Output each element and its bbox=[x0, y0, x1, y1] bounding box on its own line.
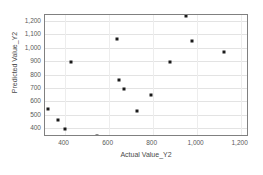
data-point bbox=[168, 61, 171, 64]
scatter-chart: 4005006007008009001,0001,1001,200 400600… bbox=[0, 0, 263, 175]
x-tick-label: 1,000 bbox=[176, 139, 216, 147]
x-axis-tick-labels: 4006008001,0001,200 bbox=[0, 139, 263, 149]
gridline-x-400 bbox=[65, 15, 66, 135]
x-tick-label: 1,200 bbox=[220, 139, 260, 147]
y-tick-label: 500 bbox=[1, 110, 41, 117]
data-point bbox=[64, 127, 67, 130]
gridline-y-600 bbox=[45, 101, 247, 102]
plot-area bbox=[44, 14, 248, 136]
gridline-y-1000 bbox=[45, 48, 247, 49]
gridline-y-800 bbox=[45, 75, 247, 76]
x-axis-title: Actual Value_Y2 bbox=[44, 150, 248, 159]
gridline-x-600 bbox=[109, 15, 110, 135]
data-point bbox=[123, 87, 126, 90]
data-point bbox=[56, 118, 59, 121]
data-point bbox=[116, 38, 119, 41]
y-axis-tick-labels: 4005006007008009001,0001,1001,200 bbox=[0, 14, 41, 136]
data-point bbox=[149, 93, 152, 96]
gridline-x-800 bbox=[153, 15, 154, 135]
y-tick-label: 700 bbox=[1, 83, 41, 90]
y-tick-label: 600 bbox=[1, 97, 41, 104]
gridline-y-900 bbox=[45, 61, 247, 62]
gridline-y-400 bbox=[45, 128, 247, 129]
gridline-y-1200 bbox=[45, 21, 247, 22]
data-point bbox=[136, 109, 139, 112]
y-tick-label: 900 bbox=[1, 57, 41, 64]
y-tick-label: 400 bbox=[1, 124, 41, 131]
gridline-y-700 bbox=[45, 88, 247, 89]
data-point bbox=[185, 14, 188, 17]
y-axis-title: Predicted Value_Y2 bbox=[10, 13, 19, 113]
gridline-x-1200 bbox=[241, 15, 242, 135]
data-point bbox=[118, 78, 121, 81]
data-point bbox=[47, 107, 50, 110]
data-point bbox=[223, 51, 226, 54]
y-tick-label: 800 bbox=[1, 70, 41, 77]
data-point bbox=[190, 40, 193, 43]
gridline-x-1000 bbox=[197, 15, 198, 135]
x-tick-label: 600 bbox=[88, 139, 128, 147]
x-tick-label: 800 bbox=[132, 139, 172, 147]
y-tick-label: 1,100 bbox=[1, 30, 41, 37]
x-tick-label: 400 bbox=[44, 139, 84, 147]
y-tick-label: 1,200 bbox=[1, 17, 41, 24]
y-tick-label: 1,000 bbox=[1, 43, 41, 50]
gridline-y-1100 bbox=[45, 34, 247, 35]
data-point bbox=[96, 135, 99, 136]
data-point bbox=[69, 60, 72, 63]
gridline-y-500 bbox=[45, 115, 247, 116]
